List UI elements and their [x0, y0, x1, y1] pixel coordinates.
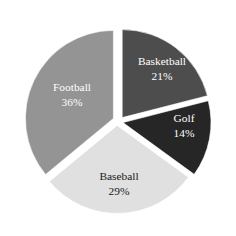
pie-slice-label-basketball: Basketball — [138, 55, 186, 67]
pie-slice-value-football: 36% — [62, 96, 83, 108]
pie-slice-label-baseball: Baseball — [99, 170, 138, 182]
pie-slice-label-football: Football — [53, 81, 91, 93]
pie-chart-canvas: Basketball21%Golf14%Baseball29%Football3… — [0, 0, 236, 236]
pie-slice-value-golf: 14% — [174, 127, 195, 139]
pie-slice-label-golf: Golf — [174, 112, 195, 124]
pie-slice-value-baseball: 29% — [109, 185, 130, 197]
pie-slice-value-basketball: 21% — [152, 70, 173, 82]
pie-chart-figure: Basketball21%Golf14%Baseball29%Football3… — [0, 0, 236, 236]
